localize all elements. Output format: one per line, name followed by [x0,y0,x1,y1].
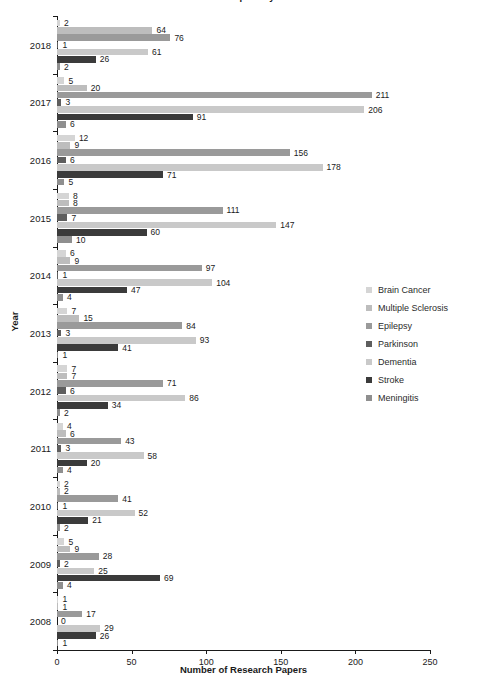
bar-row: 1 [57,503,430,510]
bar[interactable] [57,560,60,567]
bar[interactable] [57,387,66,394]
year-group: 20161291566178715 [57,131,430,189]
bar[interactable] [57,503,58,510]
bar-value-label: 4 [67,580,72,590]
bar[interactable] [57,467,63,474]
bar-row: 97 [57,265,430,272]
y-axis-tick-label: 2014 [30,270,51,281]
bar[interactable] [57,114,193,121]
bar[interactable] [57,423,63,430]
bar[interactable] [57,488,60,495]
bar[interactable] [57,373,67,380]
bar-row: 178 [57,164,430,171]
bar[interactable] [57,250,66,257]
bar[interactable] [57,257,70,264]
bar[interactable] [57,85,87,92]
y-axis-tick [53,362,57,363]
bar[interactable] [57,308,67,315]
bar[interactable] [57,164,323,171]
bar[interactable] [57,430,66,437]
bar[interactable] [57,546,70,553]
legend-item[interactable]: Brain Cancer [366,281,448,299]
bar[interactable] [57,179,64,186]
bar[interactable] [57,200,69,207]
bar[interactable] [57,63,60,70]
legend-item[interactable]: Dementia [366,353,448,371]
bar-row: 2 [57,524,430,531]
bar[interactable] [57,229,147,236]
bar[interactable] [57,517,88,524]
bar[interactable] [57,322,182,329]
bar[interactable] [57,625,100,632]
bar[interactable] [57,603,58,610]
bar[interactable] [57,121,66,128]
bar[interactable] [57,352,58,359]
bar-row: 12 [57,135,430,142]
bar[interactable] [57,445,61,452]
bar-value-label: 2 [64,62,69,72]
bar-row: 10 [57,236,430,243]
bar[interactable] [57,56,96,63]
legend-item[interactable]: Meningitis [366,389,448,407]
bar[interactable] [57,538,64,545]
bar-row: 20 [57,460,430,467]
bar[interactable] [57,222,276,229]
bar[interactable] [57,330,61,337]
bar[interactable] [57,272,58,279]
bar[interactable] [57,568,94,575]
bar-row: 17 [57,611,430,618]
bar-row: 2 [57,20,430,27]
bar[interactable] [57,640,58,647]
legend-item[interactable]: Epilepsy [366,317,448,335]
bar[interactable] [57,42,58,49]
bar[interactable] [57,92,372,99]
bar-value-label: 5 [68,177,73,187]
bar[interactable] [57,582,63,589]
legend-swatch-icon [366,323,372,329]
bar-row: 1 [57,640,430,647]
y-axis-tick [53,477,57,478]
bar[interactable] [57,265,202,272]
bar[interactable] [57,409,60,416]
bar-row: 71 [57,171,430,178]
bar[interactable] [57,142,70,149]
bar[interactable] [57,294,63,301]
bar[interactable] [57,27,152,34]
bar-row: 60 [57,229,430,236]
legend-swatch-icon [366,287,372,293]
y-axis-tick-label: 2018 [30,39,51,50]
legend-label: Parkinson [378,339,418,349]
bar[interactable] [57,236,72,243]
bar[interactable] [57,77,64,84]
x-axis-tick [206,650,207,654]
bar[interactable] [57,135,75,142]
legend-label: Stroke [378,375,404,385]
bar[interactable] [57,149,290,156]
bar[interactable] [57,365,67,372]
bar[interactable] [57,20,60,27]
bar[interactable] [57,157,66,164]
legend-item[interactable]: Stroke [366,371,448,389]
chart-legend: Brain CancerMultiple SclerosisEpilepsyPa… [366,281,448,407]
bar[interactable] [57,34,170,41]
y-axis-title: Year [9,292,20,352]
legend-item[interactable]: Parkinson [366,335,448,353]
bar[interactable] [57,193,69,200]
bar[interactable] [57,524,60,531]
bar-row: 26 [57,632,430,639]
y-axis-tick-label: 2013 [30,327,51,338]
bar[interactable] [57,99,61,106]
y-axis-tick [53,189,57,190]
bar[interactable] [57,481,60,488]
bar[interactable] [57,596,58,603]
legend-item[interactable]: Multiple Sclerosis [366,299,448,317]
bar[interactable] [57,106,364,113]
bar[interactable] [57,315,79,322]
x-axis-tick [430,650,431,654]
bar-row: 9 [57,546,430,553]
bar[interactable] [57,207,223,214]
bar-row: 5 [57,538,430,545]
bar[interactable] [57,214,67,221]
bar[interactable] [57,575,160,582]
y-axis-tick [53,304,57,305]
